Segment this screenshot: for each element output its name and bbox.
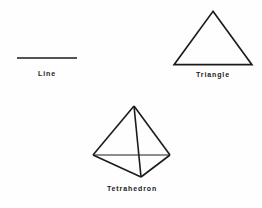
tetrahedron-edge-right-front <box>141 155 170 177</box>
triangle-shape <box>172 8 254 68</box>
tetrahedron-edge-apex-front <box>134 106 141 177</box>
geometric-shapes-figure: Line Triangle Tetrahedron <box>0 0 262 208</box>
line-shape <box>16 54 78 62</box>
tetrahedron-edge-apex-left <box>93 106 134 155</box>
triangle-label: Triangle <box>172 71 254 78</box>
tetrahedron-edge-apex-right <box>134 106 170 155</box>
triangle-outline <box>174 11 252 64</box>
tetrahedron-shape <box>88 101 176 183</box>
tetrahedron-edge-left-front <box>93 155 141 177</box>
line-label: Line <box>16 70 78 77</box>
tetrahedron-label: Tetrahedron <box>84 185 180 192</box>
